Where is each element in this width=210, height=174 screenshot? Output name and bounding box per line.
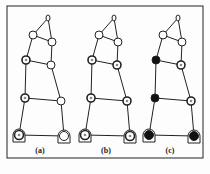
frame-diagram: (a)(b)(c) — [0, 0, 210, 174]
frame-member — [91, 98, 127, 101]
open-joint-icon — [159, 31, 167, 39]
open-joint-icon — [114, 38, 122, 46]
panel-label: (c) — [166, 146, 175, 155]
filled-joint-icon — [145, 131, 154, 140]
open-joint-icon — [48, 38, 56, 46]
open-joint-icon — [47, 61, 55, 69]
open-joint-icon — [95, 31, 103, 39]
joint-center — [180, 64, 183, 67]
panel-a: (a) — [13, 15, 70, 155]
panel-label: (b) — [101, 146, 111, 155]
frame-member — [25, 98, 61, 101]
joint-center — [24, 97, 27, 100]
frame-member — [117, 65, 127, 101]
filled-joint-icon — [190, 132, 199, 141]
panel-c: (c) — [143, 15, 200, 155]
open-joint-icon — [60, 132, 69, 141]
joint-center — [18, 134, 21, 137]
frame-member — [51, 65, 61, 101]
frame-member — [181, 65, 191, 101]
joint-center — [84, 134, 87, 137]
frame-member — [85, 135, 130, 136]
joint-center — [25, 59, 28, 62]
frame-member — [155, 60, 156, 98]
joint-center — [116, 64, 119, 67]
filled-joint-icon — [151, 94, 159, 102]
panel-b: (b) — [79, 15, 136, 155]
panel-label: (a) — [35, 146, 45, 155]
open-joint-icon — [112, 15, 116, 21]
joint-center — [126, 100, 129, 103]
open-joint-icon — [178, 38, 186, 46]
joint-center — [190, 100, 193, 103]
open-joint-icon — [29, 31, 37, 39]
open-joint-icon — [176, 15, 180, 21]
open-joint-icon — [46, 15, 50, 21]
frame-member — [149, 135, 194, 136]
filled-joint-icon — [152, 56, 160, 64]
open-joint-icon — [57, 97, 65, 105]
joint-center — [91, 59, 94, 62]
frame-member — [25, 60, 26, 98]
frame-member — [19, 135, 64, 136]
frame-member — [155, 98, 191, 101]
joint-center — [90, 97, 93, 100]
frame-member — [91, 60, 92, 98]
joint-center — [129, 135, 132, 138]
